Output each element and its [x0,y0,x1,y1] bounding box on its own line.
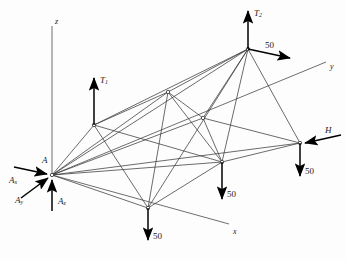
member-f-g [148,162,222,208]
node-interior-upper [166,90,169,93]
support-node-a-label: A [42,156,48,165]
force-50-mid-label: 50 [227,190,236,199]
reaction-ay-label: Ay [15,196,23,206]
force-50-apex [248,49,290,58]
member-a-b [52,125,94,175]
force-h-label: H [325,126,332,135]
x-axis-label: x [233,228,237,236]
member-b-g [94,125,222,162]
force-h [305,135,341,143]
member-g-h [222,143,300,162]
force-50-right-label: 50 [305,167,314,176]
truss-members-group [52,49,300,208]
member-e-h [203,118,300,143]
z-axis-label: z [55,18,58,26]
member-a-c [52,49,248,175]
member-a-h [52,143,300,175]
member-b-f [94,125,148,208]
member-b-c [94,49,248,125]
free-body-diagram: zyxAT1T250H505050AxAyAz [0,0,346,260]
force-50-lower-label: 50 [153,232,162,241]
reaction-az-label: Az [58,197,66,207]
force-t2-label: T2 [254,9,262,19]
member-d-f [148,92,168,208]
member-c-d [168,49,248,92]
force-50-apex-label: 50 [265,41,274,50]
force-t1-label: T1 [100,76,108,86]
y-axis [52,62,326,175]
reaction-ay [21,178,48,198]
support-node-a [50,173,53,176]
member-c-f [148,49,248,208]
x-axis [52,175,229,224]
member-d-g [168,92,222,162]
member-c-h [248,49,300,143]
reaction-ax [14,167,47,174]
diagram-canvas [0,0,346,260]
reaction-ax-label: Ax [9,176,17,186]
y-axis-label: y [330,63,334,71]
member-a-f [52,175,148,208]
member-c-g [222,49,248,162]
node-interior-mid [201,116,204,119]
member-b-d [94,92,168,125]
